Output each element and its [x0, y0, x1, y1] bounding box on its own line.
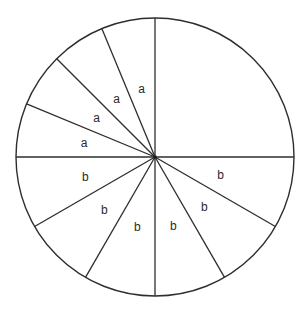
sector-label-a: a: [81, 136, 88, 150]
sector-label-b: b: [170, 219, 177, 233]
sector-label-a: a: [138, 82, 145, 96]
sector-label-b: b: [217, 168, 224, 182]
sector-label-b: b: [82, 170, 89, 184]
sector-label-a: a: [93, 111, 100, 125]
sector-label-b: b: [201, 200, 208, 214]
sector-label-b: b: [101, 203, 108, 217]
sector-label-b: b: [134, 220, 141, 234]
center-point: [153, 155, 157, 159]
sector-label-a: a: [113, 92, 120, 106]
partitioned-circle-diagram: aaaabbbbbb: [0, 0, 306, 311]
